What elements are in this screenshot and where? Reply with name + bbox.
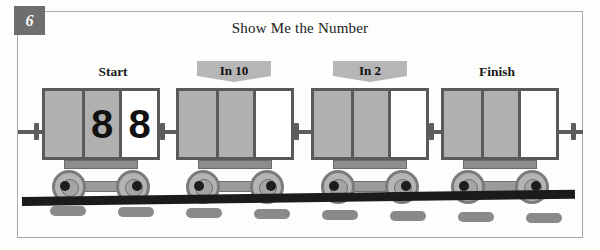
- car-panel[interactable]: [256, 91, 291, 157]
- car-panel[interactable]: [45, 91, 85, 157]
- car-panel[interactable]: [521, 91, 556, 157]
- car-body-start: 8 8: [42, 88, 160, 160]
- car-chassis: [333, 160, 407, 169]
- label-finish: Finish: [452, 64, 542, 80]
- coupler-head: [571, 123, 576, 140]
- banner-in2-label: In 2: [333, 63, 407, 79]
- car-panel[interactable]: [354, 91, 391, 157]
- car-panel[interactable]: 8: [85, 91, 122, 157]
- wheel-hub: [329, 181, 339, 191]
- railway-tie: [50, 206, 86, 216]
- problem-number-badge: 6: [14, 6, 45, 35]
- car-panel[interactable]: [219, 91, 256, 157]
- coupler-head: [429, 123, 434, 140]
- panel-digit: 8: [128, 104, 150, 144]
- page-title: Show Me the Number: [0, 20, 600, 37]
- railway-tie: [186, 208, 222, 218]
- wheel-hub: [132, 181, 142, 191]
- panel-digit: 8: [91, 104, 113, 144]
- car-panel[interactable]: [391, 91, 426, 157]
- wheel-hub: [459, 181, 469, 191]
- left-buffer-head: [34, 123, 39, 140]
- coupler-head: [160, 123, 165, 140]
- coupler-head: [294, 123, 299, 140]
- wheel-hub: [266, 181, 276, 191]
- wheel-hub: [531, 181, 541, 191]
- car-chassis: [198, 160, 272, 169]
- car-body-in2: [311, 88, 429, 160]
- worksheet-page: 6 Show Me the Number Start In 10 In 2 Fi…: [0, 0, 600, 250]
- car-panel[interactable]: [314, 91, 354, 157]
- wheel-hub: [194, 181, 204, 191]
- car-panel[interactable]: [444, 91, 484, 157]
- car-panel[interactable]: [484, 91, 521, 157]
- wheel-hub: [60, 181, 70, 191]
- railway-tie: [458, 212, 494, 222]
- railway-tie: [118, 207, 154, 217]
- railway-tie: [322, 210, 358, 220]
- label-start: Start: [68, 64, 158, 80]
- railway-tie: [254, 209, 290, 219]
- wheel-hub: [401, 181, 411, 191]
- railway-tie: [526, 213, 562, 223]
- car-chassis: [463, 160, 537, 169]
- car-panel[interactable]: 8: [122, 91, 157, 157]
- car-panel[interactable]: [179, 91, 219, 157]
- car-body-finish: [441, 88, 559, 160]
- car-chassis: [64, 160, 138, 169]
- banner-in10-label: In 10: [197, 63, 271, 79]
- railway-tie: [390, 211, 426, 221]
- car-body-in10: [176, 88, 294, 160]
